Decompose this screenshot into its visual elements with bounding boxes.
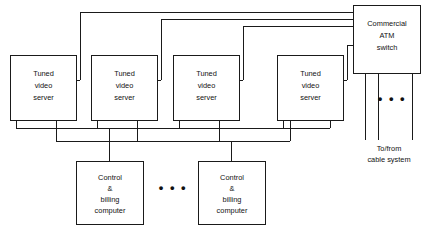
atm-switch-label-line2: ATM [379, 31, 394, 40]
control-billing-computer-1[interactable]: Control & billing computer [77, 162, 144, 225]
video-server-4-label-line3: server [300, 93, 321, 102]
video-server-2-label-line3: server [114, 93, 135, 102]
control-computer-1-label-line4: computer [95, 206, 126, 215]
control-computer-2-label-line3: billing [223, 195, 242, 204]
cable-system-caption-line2: cable system [367, 155, 410, 164]
uplink-wire-server-4 [347, 45, 353, 80]
cable-system-caption: To/from cable system [367, 144, 410, 164]
video-server-1-label-line3: server [33, 93, 54, 102]
atm-switch-label-line1: Commercial [367, 19, 407, 28]
control-billing-computer-1-box[interactable] [77, 162, 144, 225]
control-billing-computer-2[interactable]: Control & billing computer [199, 162, 266, 225]
control-computer-1-label-line3: billing [101, 195, 120, 204]
diagram-canvas: Tuned video server Tuned video server Tu… [0, 0, 426, 232]
video-server-3[interactable]: Tuned video server [174, 56, 240, 121]
control-computer-2-label-line1: Control [220, 173, 244, 182]
video-server-1[interactable]: Tuned video server [11, 56, 77, 121]
video-server-3-label-line2: video [198, 81, 216, 90]
control-computer-1-label-line2: & [108, 184, 113, 193]
video-server-2-label-line1: Tuned [114, 69, 135, 78]
video-server-1-label-line2: video [35, 81, 53, 90]
control-computer-1-label-line1: Control [98, 173, 122, 182]
video-server-4-label-line2: video [302, 81, 320, 90]
video-server-4-label-line1: Tuned [300, 69, 321, 78]
control-computer-ellipsis-icon: • • • [159, 180, 187, 195]
video-server-4[interactable]: Tuned video server [278, 56, 344, 121]
video-server-3-label-line3: server [196, 93, 217, 102]
video-server-3-label-line1: Tuned [196, 69, 217, 78]
video-server-ellipsis-icon: • • • [378, 91, 406, 106]
video-server-2-label-line2: video [116, 81, 134, 90]
video-servers-group: Tuned video server Tuned video server Tu… [11, 56, 344, 121]
control-billing-computer-2-box[interactable] [199, 162, 266, 225]
atm-switch-label-line3: switch [377, 43, 398, 52]
commercial-atm-switch[interactable]: Commercial ATM switch [354, 6, 421, 74]
cable-system-wires-group [365, 73, 412, 140]
control-computer-2-label-line2: & [230, 184, 235, 193]
video-server-1-label-line1: Tuned [33, 69, 54, 78]
video-server-2[interactable]: Tuned video server [92, 56, 158, 121]
cable-system-caption-line1: To/from [377, 144, 402, 153]
control-bus-wires-group [16, 120, 330, 161]
control-computer-2-label-line4: computer [217, 206, 248, 215]
network-diagram: Tuned video server Tuned video server Tu… [0, 0, 426, 232]
